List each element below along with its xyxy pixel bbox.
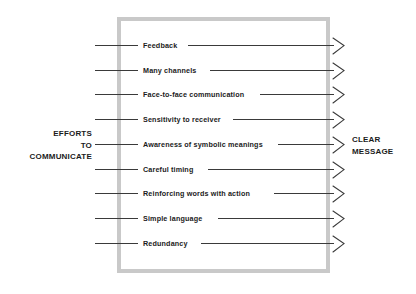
arrow-row: Redundancy [0,237,416,251]
arrow-line-left [95,45,138,46]
arrow-line-left [95,144,138,145]
arrow-row: Feedback [0,39,416,53]
communication-diagram: EFFORTS TO COMMUNICATE CLEAR MESSAGE Fee… [0,0,416,294]
arrow-line-left [95,193,138,194]
arrow-row: Many channels [0,64,416,78]
arrow-line-right [274,193,334,194]
arrow-row: Careful timing [0,163,416,177]
arrow-line-left [95,94,138,95]
chevron-right-arrowhead-icon [332,62,346,80]
arrow-row-label: Reinforcing words with action [143,187,250,200]
arrow-row-label: Awareness of symbolic meanings [143,138,263,151]
arrow-line-right [201,243,334,244]
chevron-right-arrowhead-icon [332,161,346,179]
arrow-line-right [233,119,334,120]
chevron-right-arrowhead-icon [332,86,346,104]
arrow-row: Sensitivity to receiver [0,113,416,127]
arrow-line-left [95,119,138,120]
arrow-row: Awareness of symbolic meanings [0,138,416,152]
arrow-row: Simple language [0,212,416,226]
chevron-right-arrowhead-icon [332,37,346,55]
arrow-line-right [278,144,334,145]
arrow-row: Reinforcing words with action [0,187,416,201]
arrow-line-left [95,70,138,71]
arrow-line-right [260,94,334,95]
chevron-right-arrowhead-icon [332,235,346,253]
arrow-line-right [188,45,334,46]
arrow-line-left [95,218,138,219]
chevron-right-arrowhead-icon [332,210,346,228]
chevron-right-arrowhead-icon [332,111,346,129]
chevron-right-arrowhead-icon [332,136,346,154]
arrow-row-label: Feedback [143,39,177,52]
arrow-line-left [95,243,138,244]
arrow-row-label: Simple language [143,212,202,225]
arrow-row-label: Face-to-face communication [143,88,244,101]
arrow-row-label: Many channels [143,64,196,77]
arrow-line-left [95,169,138,170]
chevron-right-arrowhead-icon [332,185,346,203]
arrow-line-right [210,70,334,71]
arrow-row: Face-to-face communication [0,88,416,102]
arrow-row-label: Redundancy [143,237,188,250]
arrow-line-right [208,169,334,170]
arrow-row-label: Sensitivity to receiver [143,113,221,126]
arrow-line-right [218,218,334,219]
arrow-row-label: Careful timing [143,163,193,176]
